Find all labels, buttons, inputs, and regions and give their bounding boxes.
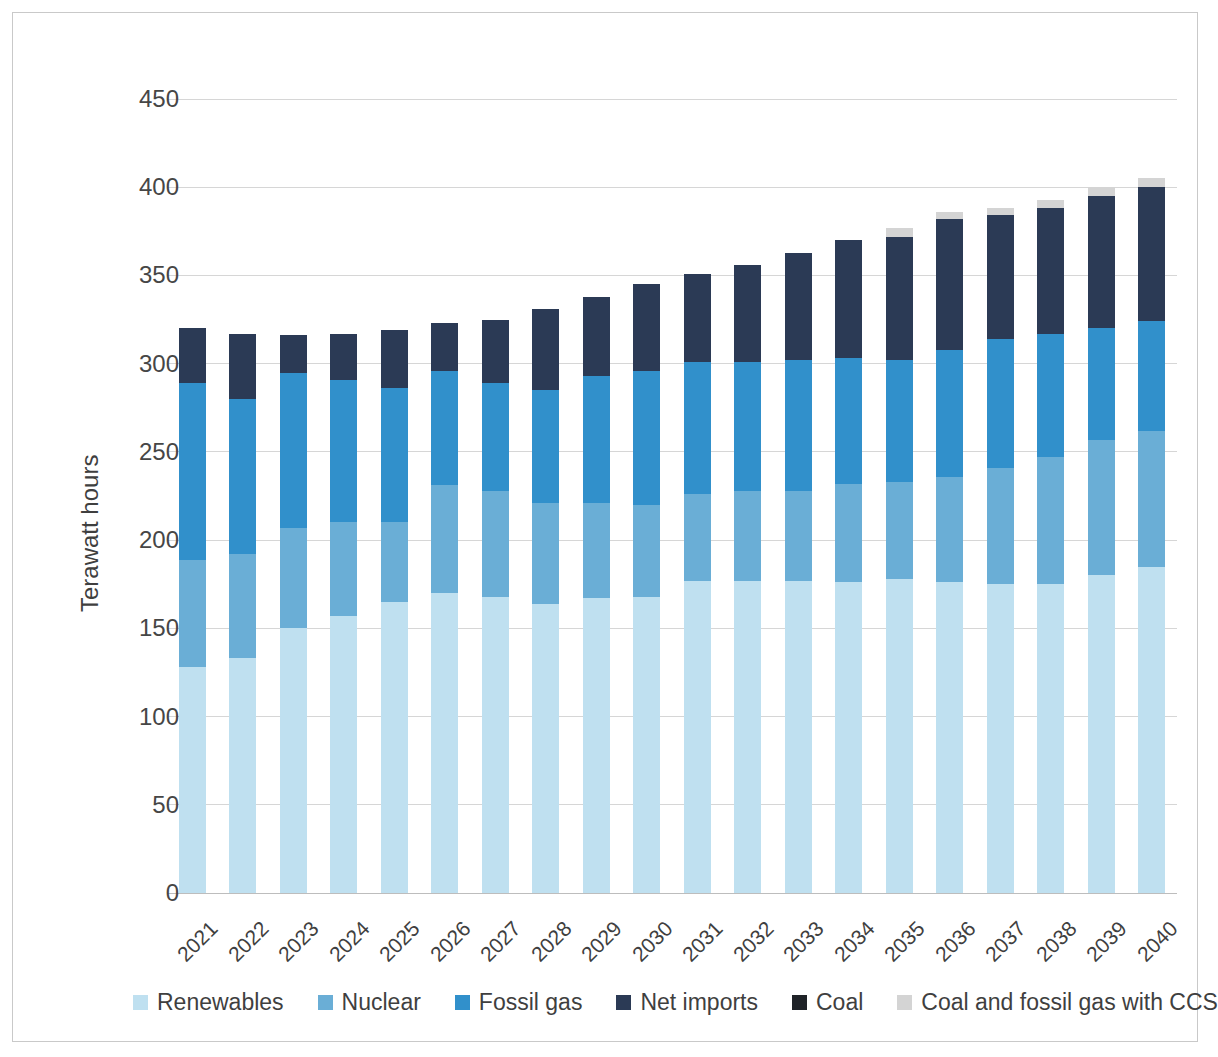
- bar-segment-fossil-gas: [684, 362, 711, 494]
- bar-2028[interactable]: [532, 309, 559, 893]
- y-axis-tick-label: 300: [89, 352, 179, 376]
- y-axis-tick-label: 150: [89, 616, 179, 640]
- y-axis-tick-label: 0: [89, 881, 179, 905]
- x-axis-label-2040: 2040: [1116, 917, 1182, 983]
- bar-segment-net-imports: [179, 328, 206, 383]
- y-axis-tick-label: 400: [89, 175, 179, 199]
- bar-segment-fossil-gas: [1138, 321, 1165, 430]
- bar-segment-renewables: [785, 581, 812, 893]
- bar-2031[interactable]: [684, 274, 711, 893]
- bar-segment-nuclear: [1138, 431, 1165, 567]
- bar-segment-net-imports: [381, 330, 408, 388]
- legend-item-renewables[interactable]: Renewables: [133, 989, 284, 1016]
- bar-segment-fossil-gas: [785, 360, 812, 491]
- bar-segment-renewables: [532, 604, 559, 893]
- bar-segment-net-imports: [280, 335, 307, 372]
- bar-segment-net-imports: [1088, 196, 1115, 328]
- bar-segment-nuclear: [482, 491, 509, 597]
- bar-segment-renewables: [229, 658, 256, 893]
- bar-2039[interactable]: [1088, 187, 1115, 893]
- legend-swatch-icon: [318, 995, 333, 1010]
- bar-segment-fossil-gas: [835, 358, 862, 483]
- bar-segment-net-imports: [987, 215, 1014, 339]
- bar-segment-fossil-gas: [229, 399, 256, 554]
- legend-label: Nuclear: [342, 989, 421, 1016]
- bar-2036[interactable]: [936, 212, 963, 893]
- bar-segment-renewables: [583, 598, 610, 893]
- bar-segment-renewables: [684, 581, 711, 893]
- bar-segment-nuclear: [936, 477, 963, 583]
- bar-2030[interactable]: [633, 284, 660, 893]
- bar-segment-fossil-gas: [1088, 328, 1115, 439]
- bar-2029[interactable]: [583, 297, 610, 893]
- legend-swatch-icon: [133, 995, 148, 1010]
- legend-label: Coal: [816, 989, 863, 1016]
- bar-2024[interactable]: [330, 334, 357, 893]
- bar-2023[interactable]: [280, 335, 307, 893]
- bar-segment-nuclear: [835, 484, 862, 583]
- bar-segment-renewables: [936, 582, 963, 893]
- legend-swatch-icon: [455, 995, 470, 1010]
- bar-2038[interactable]: [1037, 200, 1064, 893]
- bar-segment-net-imports: [886, 237, 913, 361]
- bar-segment-renewables: [987, 584, 1014, 893]
- bar-2033[interactable]: [785, 253, 812, 893]
- bar-segment-net-imports: [482, 320, 509, 384]
- bar-segment-renewables: [179, 667, 206, 893]
- legend-swatch-icon: [897, 995, 912, 1010]
- legend-item-coal[interactable]: Coal: [792, 989, 863, 1016]
- y-axis-tick-label: 100: [89, 705, 179, 729]
- legend-item-coal-and-fossil-gas-with-ccs[interactable]: Coal and fossil gas with CCS: [897, 989, 1218, 1016]
- bar-segment-net-imports: [936, 219, 963, 350]
- bar-segment-fossil-gas: [280, 373, 307, 528]
- bar-2040[interactable]: [1138, 178, 1165, 893]
- bar-segment-net-imports: [633, 284, 660, 370]
- plot-area: [167, 99, 1177, 893]
- bar-2025[interactable]: [381, 330, 408, 893]
- bar-segment-renewables: [1138, 567, 1165, 893]
- bar-segment-renewables: [1088, 575, 1115, 893]
- bar-segment-fossil-gas: [583, 376, 610, 503]
- bar-segment-fossil-gas: [1037, 334, 1064, 458]
- bar-segment-fossil-gas: [532, 390, 559, 503]
- bar-segment-coal-and-fossil-gas-with-ccs: [1037, 200, 1064, 209]
- legend-item-fossil-gas[interactable]: Fossil gas: [455, 989, 583, 1016]
- bar-segment-renewables: [1037, 584, 1064, 893]
- bar-segment-nuclear: [179, 560, 206, 668]
- bar-segment-renewables: [886, 579, 913, 893]
- bar-2037[interactable]: [987, 208, 1014, 893]
- chart-legend: RenewablesNuclearFossil gasNet importsCo…: [133, 985, 1163, 1019]
- bar-segment-coal-and-fossil-gas-with-ccs: [1138, 178, 1165, 187]
- bar-segment-fossil-gas: [179, 383, 206, 559]
- bar-segment-net-imports: [734, 265, 761, 362]
- bar-2022[interactable]: [229, 334, 256, 893]
- bar-segment-net-imports: [1037, 208, 1064, 333]
- bar-segment-net-imports: [684, 274, 711, 362]
- bar-segment-renewables: [482, 597, 509, 893]
- y-axis-tick-label: 450: [89, 87, 179, 111]
- bar-segment-renewables: [835, 582, 862, 893]
- bar-segment-nuclear: [1088, 440, 1115, 576]
- bar-2032[interactable]: [734, 265, 761, 893]
- bar-segment-nuclear: [532, 503, 559, 604]
- legend-label: Coal and fossil gas with CCS: [921, 989, 1218, 1016]
- bar-2027[interactable]: [482, 320, 509, 893]
- y-axis-tick-label: 50: [89, 793, 179, 817]
- bar-2021[interactable]: [179, 328, 206, 893]
- legend-label: Net imports: [640, 989, 758, 1016]
- bar-segment-renewables: [381, 602, 408, 893]
- bar-segment-nuclear: [583, 503, 610, 598]
- bar-segment-nuclear: [684, 494, 711, 580]
- bar-segment-fossil-gas: [987, 339, 1014, 468]
- legend-item-net-imports[interactable]: Net imports: [616, 989, 758, 1016]
- bar-segment-fossil-gas: [330, 380, 357, 523]
- bar-segment-nuclear: [431, 485, 458, 593]
- bar-2034[interactable]: [835, 240, 862, 893]
- legend-item-nuclear[interactable]: Nuclear: [318, 989, 421, 1016]
- bar-2026[interactable]: [431, 323, 458, 893]
- bar-segment-nuclear: [633, 505, 660, 597]
- bar-segment-net-imports: [532, 309, 559, 390]
- bar-segment-fossil-gas: [936, 350, 963, 477]
- bar-2035[interactable]: [886, 228, 913, 893]
- bar-segment-net-imports: [1138, 187, 1165, 321]
